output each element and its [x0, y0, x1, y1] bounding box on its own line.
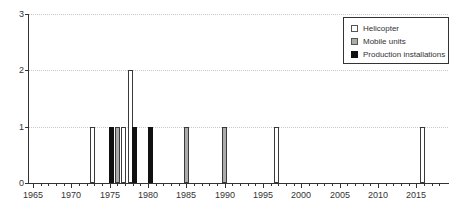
bar-production-installations-1975: [109, 127, 114, 183]
x-tick-2010: [378, 184, 379, 188]
x-axis-label-2010: 2010: [361, 190, 395, 200]
x-tick-1987: [202, 184, 203, 186]
x-tick-1967: [48, 184, 49, 186]
x-tick-1995: [263, 184, 264, 188]
x-axis-label-1975: 1975: [93, 190, 127, 200]
y-tick-1: [25, 127, 28, 128]
y-tick-0: [25, 183, 28, 184]
legend-label: Helicopter: [363, 24, 399, 33]
bar-helicopter-1973: [90, 127, 95, 183]
x-axis-label-1980: 1980: [131, 190, 165, 200]
x-tick-1981: [156, 184, 157, 186]
x-tick-1992: [240, 184, 241, 186]
x-tick-1978: [133, 184, 134, 186]
x-tick-1976: [117, 184, 118, 186]
x-tick-1965: [33, 184, 34, 188]
x-tick-1970: [71, 184, 72, 188]
legend-label: Production installations: [363, 50, 445, 59]
legend-item-mobile-units: Mobile units: [351, 35, 448, 48]
y-axis-label-3: 3: [8, 9, 24, 19]
chart-legend: Helicopter Mobile units Production insta…: [343, 17, 449, 64]
x-tick-1998: [286, 184, 287, 186]
x-tick-1994: [255, 184, 256, 186]
x-tick-2000: [301, 184, 302, 188]
legend-label: Mobile units: [363, 37, 406, 46]
bar-helicopter-2016: [420, 127, 425, 183]
x-tick-1999: [294, 184, 295, 186]
x-axis-label-1965: 1965: [16, 190, 50, 200]
x-tick-1996: [271, 184, 272, 186]
x-axis-label-2005: 2005: [323, 190, 357, 200]
x-tick-2018: [439, 184, 440, 186]
x-tick-1985: [186, 184, 187, 188]
x-tick-1975: [110, 184, 111, 188]
y-axis-label-1: 1: [8, 122, 24, 132]
x-tick-1969: [64, 184, 65, 186]
x-tick-2001: [309, 184, 310, 186]
y-axis-label-0: 0: [8, 178, 24, 188]
x-tick-2017: [432, 184, 433, 186]
x-tick-1979: [140, 184, 141, 186]
x-tick-1980: [148, 184, 149, 188]
y-tick-3: [25, 14, 28, 15]
x-axis-label-1990: 1990: [208, 190, 242, 200]
legend-item-production-installations: Production installations: [351, 48, 448, 61]
x-tick-2005: [340, 184, 341, 188]
x-tick-1991: [232, 184, 233, 186]
x-tick-1982: [163, 184, 164, 186]
x-tick-1974: [102, 184, 103, 186]
bar-chart: Helicopter Mobile units Production insta…: [0, 0, 457, 206]
x-tick-2009: [370, 184, 371, 186]
x-tick-2008: [363, 184, 364, 186]
x-tick-1966: [41, 184, 42, 186]
bar-mobile-units-1976: [115, 127, 120, 183]
x-tick-1971: [79, 184, 80, 186]
y-axis-line: [28, 14, 29, 184]
helicopter-swatch-icon: [351, 25, 358, 32]
x-axis-label-2015: 2015: [399, 190, 433, 200]
bar-mobile-units-1990: [222, 127, 227, 183]
x-tick-2007: [355, 184, 356, 186]
x-tick-1986: [194, 184, 195, 186]
y-axis-label-2: 2: [8, 65, 24, 75]
x-tick-1983: [171, 184, 172, 186]
x-tick-1973: [94, 184, 95, 186]
x-tick-1993: [248, 184, 249, 186]
x-tick-1997: [278, 184, 279, 186]
x-tick-1972: [87, 184, 88, 186]
x-tick-2003: [324, 184, 325, 186]
gridline-2: [29, 70, 448, 71]
x-axis-label-2000: 2000: [284, 190, 318, 200]
legend-item-helicopter: Helicopter: [351, 22, 448, 35]
production-installations-swatch-icon: [351, 51, 358, 58]
x-tick-2002: [317, 184, 318, 186]
x-axis-label-1970: 1970: [54, 190, 88, 200]
x-tick-2004: [332, 184, 333, 186]
x-tick-2011: [386, 184, 387, 186]
x-axis-label-1995: 1995: [246, 190, 280, 200]
x-tick-1977: [125, 184, 126, 186]
x-tick-2014: [409, 184, 410, 186]
x-tick-2016: [424, 184, 425, 186]
x-tick-2015: [416, 184, 417, 188]
y-tick-2: [25, 70, 28, 71]
x-tick-2006: [347, 184, 348, 186]
x-tick-1990: [225, 184, 226, 188]
gridline-3: [29, 14, 448, 15]
x-tick-2013: [401, 184, 402, 186]
x-tick-1988: [209, 184, 210, 186]
x-axis-label-1985: 1985: [169, 190, 203, 200]
x-tick-2012: [393, 184, 394, 186]
x-tick-1989: [217, 184, 218, 186]
bar-production-installations-1978: [132, 127, 137, 183]
bar-helicopter-1977: [121, 127, 126, 183]
x-tick-1984: [179, 184, 180, 186]
bar-helicopter-1997: [274, 127, 279, 183]
bar-production-installations-1980: [148, 127, 153, 183]
mobile-units-swatch-icon: [351, 38, 358, 45]
x-tick-1968: [56, 184, 57, 186]
bar-mobile-units-1985: [184, 127, 189, 183]
